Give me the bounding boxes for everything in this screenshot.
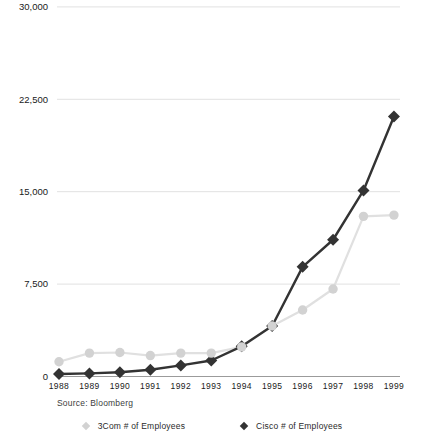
x-tick-label: 1995 [262,381,283,391]
chart-legend: 3Com # of Employees Cisco # of Employees [0,421,425,431]
x-tick-label: 1993 [201,381,222,391]
3com-data-point [115,348,124,357]
y-tick-label: 22,500 [19,94,48,105]
y-tick-label: 30,000 [19,1,48,12]
3com-series-line [59,215,394,362]
3com-data-point [267,321,276,330]
y-tick-label: 0 [43,371,48,382]
employee-growth-chart-page: 07,50015,00022,50030,0001988198919901991… [0,0,425,443]
cisco-data-point [144,364,156,376]
3com-diamond-icon [81,422,89,430]
3com-data-point [85,348,94,357]
cisco-data-point [83,367,95,379]
source-note: Source: Bloomberg [57,398,133,408]
3com-data-point [146,351,155,360]
y-tick-label: 7,500 [24,278,48,289]
cisco-data-point [388,111,400,123]
y-tick-label: 15,000 [19,186,48,197]
line-chart-canvas: 07,50015,00022,50030,0001988198919901991… [0,0,425,443]
3com-data-point [389,210,398,219]
x-tick-label: 1992 [171,381,192,391]
cisco-diamond-icon [240,422,248,430]
x-tick-label: 1991 [140,381,161,391]
3com-data-point [237,342,246,351]
x-tick-label: 1988 [49,381,70,391]
x-tick-label: 1999 [384,381,405,391]
legend-item-3com: 3Com # of Employees [83,421,185,431]
cisco-series-line [59,117,394,374]
3com-data-point [54,357,63,366]
3com-data-point [298,305,307,314]
x-tick-label: 1996 [292,381,313,391]
3com-data-point [207,348,216,357]
x-tick-label: 1994 [231,381,252,391]
cisco-legend-label: Cisco # of Employees [256,421,342,431]
x-tick-label: 1990 [110,381,131,391]
legend-item-cisco: Cisco # of Employees [241,421,342,431]
3com-data-point [359,212,368,221]
cisco-data-point [175,359,187,371]
3com-data-point [328,284,337,293]
3com-legend-label: 3Com # of Employees [98,421,185,431]
x-tick-label: 1998 [353,381,374,391]
cisco-data-point [53,368,65,380]
3com-data-point [176,348,185,357]
cisco-data-point [358,184,370,196]
x-tick-label: 1997 [323,381,344,391]
x-tick-label: 1989 [79,381,100,391]
